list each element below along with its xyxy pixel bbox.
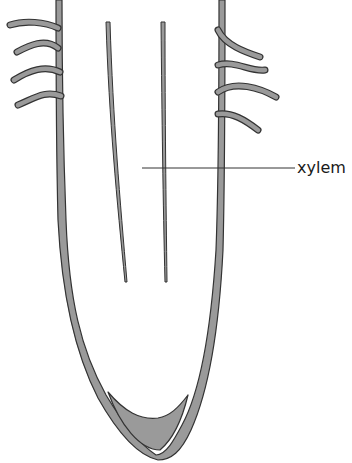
xylem-strands <box>106 22 167 282</box>
xylem-strand-left <box>106 22 127 282</box>
xylem-strand-right <box>161 22 167 282</box>
root-diagram <box>0 0 352 463</box>
xylem-label: xylem <box>297 160 346 176</box>
root-hairs-left-fill <box>10 22 61 105</box>
root-outline <box>56 0 225 460</box>
